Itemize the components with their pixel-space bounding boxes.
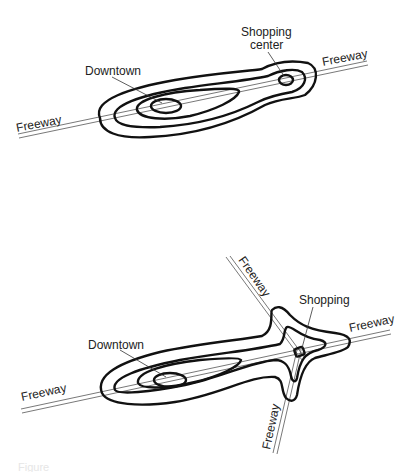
freeway-label-left: Freeway (15, 112, 63, 135)
freeway-road-main (21, 330, 391, 413)
bottom-figure: Freeway Freeway Freeway Freeway Downtown… (20, 254, 396, 454)
freeway-label-right: Freeway (348, 312, 396, 335)
figure-caption: Figure (18, 461, 49, 472)
shopping-label: Shopping (299, 293, 350, 307)
top-figure: Freeway Freeway Downtown Shopping center (15, 25, 369, 138)
downtown-label: Downtown (85, 64, 141, 78)
shopping-label-line1: Shopping (241, 25, 292, 39)
outer-contour (101, 307, 350, 404)
downtown-core (151, 99, 181, 113)
downtown-core (154, 373, 186, 387)
middle-contour (114, 70, 305, 127)
shopping-core (294, 347, 305, 358)
shopping-center-core (279, 75, 293, 85)
downtown-label: Downtown (88, 338, 144, 352)
land-value-contour-diagram: Freeway Freeway Downtown Shopping center… (0, 0, 411, 472)
freeway-label-top: Freeway (236, 254, 274, 300)
shopping-label-line2: center (250, 38, 283, 52)
